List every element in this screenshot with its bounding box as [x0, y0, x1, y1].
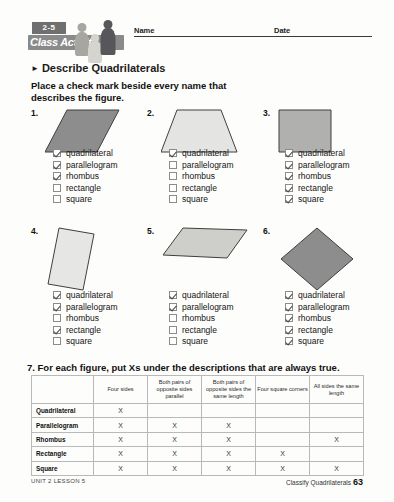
cell-marked[interactable]: X — [202, 447, 256, 461]
checkbox-label: square — [66, 194, 92, 205]
checkbox-label: rectangle — [182, 325, 217, 336]
checkbox-checked-icon[interactable] — [285, 326, 293, 334]
checkbox-checked-icon[interactable] — [53, 326, 61, 334]
cell-empty[interactable] — [310, 418, 364, 432]
checkbox-checked-icon[interactable] — [285, 172, 293, 180]
checkbox-checked-icon[interactable] — [285, 291, 293, 299]
footer-unit-lesson: UNIT 2 LESSON 5 — [31, 478, 85, 484]
checkbox-row[interactable]: parallelogram — [53, 160, 149, 172]
checkbox-empty-icon[interactable] — [169, 172, 177, 180]
checkbox-label: rhombus — [66, 171, 99, 182]
checkbox-row[interactable]: square — [53, 194, 149, 206]
checkbox-row[interactable]: rectangle — [53, 183, 149, 195]
checkbox-checked-icon[interactable] — [285, 303, 293, 311]
cell-marked[interactable]: X — [94, 447, 148, 461]
cell-marked[interactable]: X — [256, 447, 310, 461]
checkbox-row[interactable]: parallelogram — [169, 160, 265, 172]
cell-empty[interactable] — [148, 404, 202, 418]
checkbox-empty-icon[interactable] — [169, 161, 177, 169]
cell-marked[interactable]: X — [148, 432, 202, 446]
checkbox-row[interactable]: square — [169, 194, 265, 206]
checkbox-row[interactable]: rhombus — [53, 313, 149, 325]
checkbox-row[interactable]: rhombus — [169, 171, 265, 183]
checkbox-checked-icon[interactable] — [169, 303, 177, 311]
checkbox-row[interactable]: square — [53, 336, 149, 348]
cell-marked[interactable]: X — [202, 461, 256, 475]
checkbox-label: rhombus — [182, 313, 215, 324]
checkbox-row[interactable]: parallelogram — [169, 302, 265, 314]
cell-marked[interactable]: X — [148, 447, 202, 461]
checkbox-checked-icon[interactable] — [53, 149, 61, 157]
checkbox-label: quadrilateral — [182, 290, 229, 301]
table-row: RhombusXXXX — [32, 432, 364, 446]
cell-marked[interactable]: X — [310, 432, 364, 446]
checkbox-row[interactable]: quadrilateral — [53, 148, 149, 160]
checkbox-row[interactable]: square — [285, 194, 381, 206]
checkbox-checked-icon[interactable] — [169, 149, 177, 157]
checkbox-checked-icon[interactable] — [285, 149, 293, 157]
cell-empty[interactable] — [256, 432, 310, 446]
cell-marked[interactable]: X — [94, 418, 148, 432]
checkbox-checked-icon[interactable] — [285, 314, 293, 322]
cell-marked[interactable]: X — [94, 404, 148, 418]
checkbox-checked-icon[interactable] — [169, 291, 177, 299]
checkbox-row[interactable]: square — [169, 336, 265, 348]
cell-empty[interactable] — [310, 447, 364, 461]
checkbox-row[interactable]: rhombus — [53, 171, 149, 183]
checkbox-empty-icon[interactable] — [53, 195, 61, 203]
checkbox-row[interactable]: parallelogram — [285, 302, 381, 314]
checkbox-empty-icon[interactable] — [169, 337, 177, 345]
checkbox-row[interactable]: parallelogram — [285, 160, 381, 172]
checkbox-checked-icon[interactable] — [285, 161, 293, 169]
cell-marked[interactable]: X — [202, 418, 256, 432]
checkbox-row[interactable]: rhombus — [285, 313, 381, 325]
cell-empty[interactable] — [310, 404, 364, 418]
checkbox-empty-icon[interactable] — [53, 337, 61, 345]
checkbox-row[interactable]: rectangle — [169, 325, 265, 337]
cell-empty[interactable] — [256, 404, 310, 418]
checkbox-row[interactable]: rectangle — [285, 183, 381, 195]
checkbox-row[interactable]: parallelogram — [53, 302, 149, 314]
checkbox-label: parallelogram — [182, 302, 234, 313]
checkbox-row[interactable]: quadrilateral — [53, 290, 149, 302]
cell-empty[interactable] — [202, 404, 256, 418]
checkbox-row[interactable]: rhombus — [285, 171, 381, 183]
checkbox-row[interactable]: quadrilateral — [285, 148, 381, 160]
checkbox-label: parallelogram — [182, 160, 234, 171]
cell-marked[interactable]: X — [202, 432, 256, 446]
footer-title-page: Classify Quadrilaterals63 — [286, 477, 363, 487]
cell-marked[interactable]: X — [94, 461, 148, 475]
checkbox-empty-icon[interactable] — [169, 195, 177, 203]
cell-marked[interactable]: X — [148, 461, 202, 475]
table-header-row: Four sidesBoth pairs of opposite sides p… — [32, 376, 364, 404]
cell-empty[interactable] — [256, 418, 310, 432]
checklist-problem-5: quadrilateralparallelogramrhombusrectang… — [169, 290, 265, 348]
cell-marked[interactable]: X — [310, 461, 364, 475]
checkbox-row[interactable]: quadrilateral — [169, 148, 265, 160]
checkbox-row[interactable]: rectangle — [169, 183, 265, 195]
page-title: ►Describe Quadrilaterals — [31, 62, 165, 74]
checkbox-row[interactable]: square — [285, 336, 381, 348]
cell-marked[interactable]: X — [256, 461, 310, 475]
checkbox-checked-icon[interactable] — [53, 172, 61, 180]
checkbox-empty-icon[interactable] — [169, 184, 177, 192]
checkbox-empty-icon[interactable] — [53, 314, 61, 322]
checkbox-row[interactable]: quadrilateral — [169, 290, 265, 302]
checkbox-empty-icon[interactable] — [53, 184, 61, 192]
checkbox-row[interactable]: rhombus — [169, 313, 265, 325]
checkbox-checked-icon[interactable] — [53, 303, 61, 311]
checkbox-checked-icon[interactable] — [285, 195, 293, 203]
checkbox-checked-icon[interactable] — [285, 337, 293, 345]
cell-marked[interactable]: X — [148, 418, 202, 432]
cell-marked[interactable]: X — [94, 432, 148, 446]
checkbox-checked-icon[interactable] — [285, 184, 293, 192]
checkbox-checked-icon[interactable] — [53, 291, 61, 299]
checkbox-empty-icon[interactable] — [169, 326, 177, 334]
checkbox-row[interactable]: rectangle — [53, 325, 149, 337]
table-row: RectangleXXXX — [32, 447, 364, 461]
checkbox-checked-icon[interactable] — [53, 161, 61, 169]
checkbox-row[interactable]: quadrilateral — [285, 290, 381, 302]
checkbox-row[interactable]: rectangle — [285, 325, 381, 337]
row-label: Rhombus — [32, 432, 94, 446]
checkbox-empty-icon[interactable] — [169, 314, 177, 322]
